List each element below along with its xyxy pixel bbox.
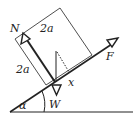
- normal-force-label: N: [9, 22, 20, 35]
- side-top-label: 2a: [39, 22, 54, 35]
- applied-force-label: F: [105, 50, 114, 63]
- diagram-canvas: N 2a 2a x F α W: [0, 0, 137, 120]
- side-left-label: 2a: [15, 63, 30, 76]
- incline-diagram: N 2a 2a x F α W: [0, 0, 137, 120]
- angle-arc: [42, 91, 45, 112]
- normal-force-arrow: [27, 40, 55, 82]
- dotted-distance-line: [57, 52, 69, 72]
- weight-label: W: [49, 98, 62, 111]
- angle-label: α: [19, 99, 27, 112]
- distance-label: x: [68, 76, 75, 89]
- weight-arrowhead-icon: [52, 85, 61, 95]
